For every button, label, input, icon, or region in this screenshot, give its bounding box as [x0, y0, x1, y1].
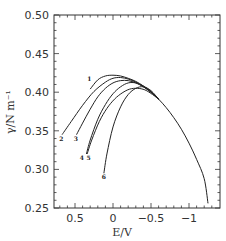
- plot-frame: [54, 15, 220, 208]
- x-tick-label: −1: [181, 212, 197, 225]
- curve-label-1: 1: [87, 75, 91, 82]
- y-tick-label: 0.25: [25, 202, 50, 215]
- curves: [62, 75, 208, 203]
- curve-label-4: 4: [80, 154, 84, 161]
- curve-label-6: 6: [102, 173, 106, 180]
- curve-1: [90, 75, 208, 203]
- y-tick-label: 0.30: [25, 163, 50, 176]
- y-axis-label: γ/N m⁻¹: [4, 90, 17, 134]
- curve-label-5: 5: [87, 154, 91, 161]
- x-axis-label: E/V: [112, 226, 133, 239]
- surface-tension-chart: 0.50−0.5−1 0.500.450.400.350.300.25 1234…: [0, 0, 226, 241]
- curve-6: [104, 87, 159, 174]
- curve-labels: 123456: [59, 75, 106, 181]
- y-tick-label: 0.45: [25, 48, 50, 61]
- x-axis: 0.50−0.5−1: [60, 15, 212, 225]
- y-tick-label: 0.40: [25, 86, 50, 99]
- curve-3: [77, 80, 159, 134]
- x-tick-label: −0.5: [138, 212, 165, 225]
- curve-label-2: 2: [59, 135, 63, 142]
- x-tick-label: 0: [110, 212, 117, 225]
- y-tick-label: 0.35: [25, 125, 50, 138]
- curve-5: [87, 88, 158, 154]
- curve-label-3: 3: [74, 135, 78, 142]
- y-tick-label: 0.50: [25, 9, 50, 22]
- x-tick-label: 0.5: [66, 212, 84, 225]
